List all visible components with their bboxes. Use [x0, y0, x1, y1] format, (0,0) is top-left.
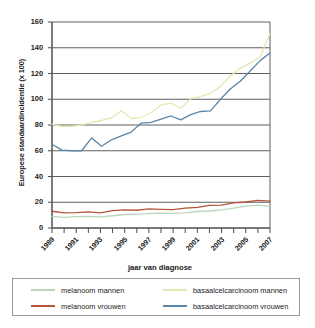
y-tick-label: 80 [19, 120, 43, 129]
legend-item-3: basaalcelcarcinoom vrouwen [163, 299, 288, 313]
chart-figure: Europese standaardincidentie (x 100) jaa… [0, 0, 315, 328]
legend-label: basaalcelcarcinoom vrouwen [193, 302, 288, 311]
y-tick-label: 20 [19, 197, 43, 206]
legend-swatch-icon [163, 289, 187, 291]
series-line-0 [52, 205, 270, 217]
legend-item-2: melanoom vrouwen [31, 299, 126, 313]
y-tick-label: 60 [19, 146, 43, 155]
legend-swatch-icon [31, 289, 55, 291]
legend-label: basaalcelcarcinoom mannen [193, 286, 287, 295]
legend-item-0: melanoom mannen [31, 283, 124, 297]
y-tick-label: 160 [19, 17, 43, 26]
legend-label: melanoom vrouwen [61, 302, 126, 311]
legend-swatch-icon [31, 305, 55, 307]
series-line-3 [52, 53, 270, 151]
line-chart-svg [0, 0, 315, 270]
chart-plot-container: Europese standaardincidentie (x 100) jaa… [0, 0, 315, 270]
legend-item-1: basaalcelcarcinoom mannen [163, 283, 287, 297]
x-axis-title: jaar van diagnose [60, 263, 260, 272]
y-tick-label: 100 [19, 94, 43, 103]
legend-swatch-icon [163, 305, 187, 307]
y-tick-label: 40 [19, 172, 43, 181]
legend-label: melanoom mannen [61, 286, 124, 295]
chart-legend: melanoom mannen basaalcelcarcinoom manne… [12, 278, 300, 316]
y-tick-label: 140 [19, 43, 43, 52]
y-tick-label: 0 [19, 223, 43, 232]
y-tick-label: 120 [19, 69, 43, 78]
